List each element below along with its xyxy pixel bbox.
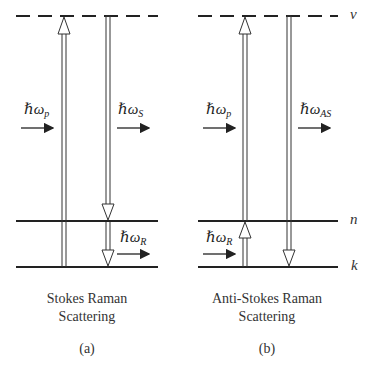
caption-b-line1: Anti-Stokes Raman bbox=[196, 290, 338, 308]
panel-label-b: (b) bbox=[196, 340, 338, 358]
caption-b-line2: Scattering bbox=[196, 308, 338, 326]
pump-up-arrow-a bbox=[58, 17, 70, 267]
stokes-label-a: ℏωS bbox=[118, 100, 143, 119]
anti-stokes-label-b: ℏωAS bbox=[300, 100, 331, 119]
raman-label-b: ℏωR bbox=[206, 228, 232, 247]
anti-stokes-down-arrow-b bbox=[283, 16, 295, 266]
caption-a-line2: Scattering bbox=[16, 308, 158, 326]
virtual-level-label: ν bbox=[350, 6, 357, 23]
pump-label-b: ℏωp bbox=[206, 100, 231, 119]
caption-a: Stokes Raman Scattering (a) bbox=[16, 290, 158, 358]
raman-up-arrow-b bbox=[239, 222, 251, 267]
raman-label-a: ℏωR bbox=[120, 228, 146, 247]
excited-level-label: n bbox=[350, 211, 358, 228]
ground-level-label: k bbox=[351, 257, 358, 274]
pump-up-arrow-b bbox=[239, 17, 251, 221]
caption-a-line1: Stokes Raman bbox=[16, 290, 158, 308]
caption-b: Anti-Stokes Raman Scattering (b) bbox=[196, 290, 338, 358]
stokes-down-arrow-a bbox=[102, 16, 114, 266]
pump-label-a: ℏωp bbox=[24, 100, 49, 119]
panel-label-a: (a) bbox=[16, 340, 158, 358]
